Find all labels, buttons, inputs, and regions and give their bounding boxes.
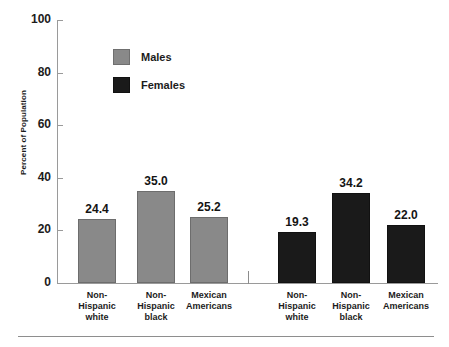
category-label-females-mexican-americans: Mexican Americans: [369, 290, 443, 312]
bar-males-mexican-americans: 25.2: [190, 217, 228, 283]
bar-females-mexican-americans: 22.0: [387, 225, 425, 283]
bar-males-non-hispanic-black: 35.0: [137, 191, 175, 283]
y-tick-label-0: 0: [5, 276, 51, 288]
bar-females-non-hispanic-black: 34.2: [332, 193, 370, 283]
bar-females-non-hispanic-white: 19.3: [278, 232, 316, 283]
bar-value-females-non-hispanic-black: 34.2: [339, 176, 362, 190]
label-line-3: black: [314, 312, 388, 323]
label-line-2: Americans: [369, 301, 443, 312]
bar-value-females-mexican-americans: 22.0: [394, 208, 417, 222]
plot-area: 24.4 35.0 25.2 19.3 34.2 22.0: [57, 20, 437, 283]
y-tick-label-60: 60: [5, 118, 51, 130]
label-line-3: black: [119, 312, 193, 323]
y-tick-label-20: 20: [5, 223, 51, 235]
bar-chart: 100 80 60 40 20 0 Percent of Population …: [0, 0, 449, 347]
y-tick-label-40: 40: [5, 171, 51, 183]
y-tick-label-100: 100: [5, 13, 51, 25]
bar-value-males-non-hispanic-white: 24.4: [85, 202, 108, 216]
label-line-1: Mexican: [172, 290, 246, 301]
y-tick-mark-0: [57, 283, 63, 284]
label-line-2: Americans: [172, 301, 246, 312]
bar-value-females-non-hispanic-white: 19.3: [285, 215, 308, 229]
label-line-1: Mexican: [369, 290, 443, 301]
bar-value-males-mexican-americans: 25.2: [197, 200, 220, 214]
bar-males-non-hispanic-white: 24.4: [78, 219, 116, 283]
bar-value-males-non-hispanic-black: 35.0: [144, 174, 167, 188]
y-tick-label-80: 80: [5, 66, 51, 78]
y-axis-title: Percent of Population: [19, 68, 28, 198]
category-label-males-mexican-americans: Mexican Americans: [172, 290, 246, 312]
bottom-divider: [18, 336, 434, 337]
